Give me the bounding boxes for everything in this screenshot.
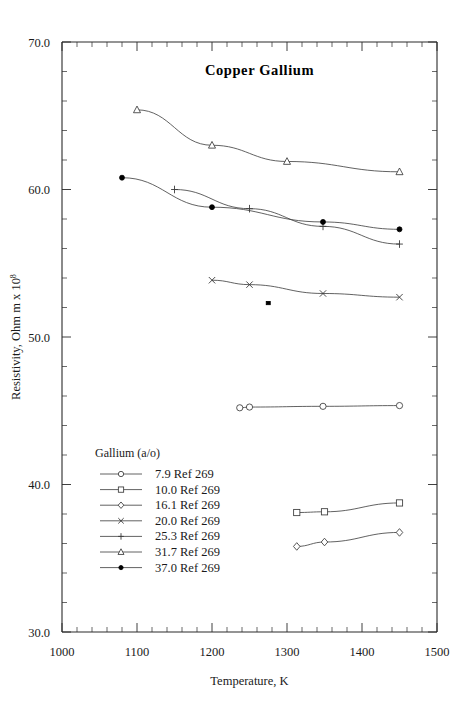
data-point-diamond-open xyxy=(396,529,403,537)
x-tick-label: 1000 xyxy=(50,645,75,659)
data-point-plus xyxy=(396,240,403,248)
data-point-square-small-filled xyxy=(266,301,270,304)
x-tick-label: 1500 xyxy=(425,645,450,659)
chart-svg: 100011001200130014001500 30.040.050.060.… xyxy=(0,0,472,707)
legend-title: Gallium (a/o) xyxy=(95,446,160,460)
data-point-square-open xyxy=(294,509,300,515)
data-point-plus xyxy=(171,186,178,194)
data-point-diamond-open xyxy=(321,538,328,546)
legend-item-label: 16.1 Ref 269 xyxy=(155,498,220,512)
legend-item-label: 31.7 Ref 269 xyxy=(155,545,220,559)
legend-item-label: 7.9 Ref 269 xyxy=(155,467,214,481)
series-20-0 xyxy=(209,277,403,300)
legend-item-label: 20.0 Ref 269 xyxy=(155,514,220,528)
data-point-circle-open xyxy=(320,403,326,409)
data-point-triangle-open xyxy=(283,158,290,165)
data-point-square-open xyxy=(321,509,327,515)
y-tick-label: 70.0 xyxy=(28,36,50,50)
data-point-circle-open xyxy=(396,402,402,408)
data-point-circle-filled xyxy=(397,227,402,232)
x-tick-label: 1100 xyxy=(125,645,150,659)
y-axis-tick-labels: 30.040.050.060.070.0 xyxy=(28,36,50,640)
data-point-diamond-open xyxy=(118,502,124,508)
chart-figure: 100011001200130014001500 30.040.050.060.… xyxy=(0,0,472,707)
plot-annotations xyxy=(266,301,270,304)
chart-title: Copper Gallium xyxy=(205,62,314,78)
legend-item-31-7[interactable]: 31.7 Ref 269 xyxy=(100,545,220,559)
data-point-circle-open xyxy=(118,471,123,476)
y-axis-label: Resistivity, Ohm m x 108 xyxy=(9,274,23,400)
plot-frame xyxy=(62,42,437,632)
data-point-circle-filled xyxy=(119,565,123,569)
data-point-square-open xyxy=(118,487,123,492)
x-axis-tick-labels: 100011001200130014001500 xyxy=(50,645,450,659)
legend-item-25-3[interactable]: 25.3 Ref 269 xyxy=(100,529,220,543)
y-tick-label: 60.0 xyxy=(28,183,50,197)
legend-item-37-0[interactable]: 37.0 Ref 269 xyxy=(100,561,220,575)
y-tick-label: 40.0 xyxy=(28,478,50,492)
legend-item-10-0[interactable]: 10.0 Ref 269 xyxy=(100,483,220,497)
data-point-diamond-open xyxy=(293,543,300,551)
series-10-0 xyxy=(294,500,403,516)
y-tick-label: 50.0 xyxy=(28,331,50,345)
x-tick-label: 1400 xyxy=(350,645,375,659)
series-25-3 xyxy=(171,186,403,248)
series-7-9 xyxy=(237,402,403,410)
chart-legend: Gallium (a/o)7.9 Ref 26910.0 Ref 26916.1… xyxy=(95,446,220,575)
data-point-circle-filled xyxy=(210,205,215,210)
legend-item-20-0[interactable]: 20.0 Ref 269 xyxy=(100,514,220,528)
series-16-1 xyxy=(293,529,402,551)
data-point-circle-filled xyxy=(321,219,326,224)
x-tick-label: 1200 xyxy=(200,645,225,659)
legend-item-7-9[interactable]: 7.9 Ref 269 xyxy=(100,467,214,481)
y-tick-label: 30.0 xyxy=(28,626,50,640)
y-axis-ticks xyxy=(62,42,437,632)
legend-item-16-1[interactable]: 16.1 Ref 269 xyxy=(100,498,220,512)
data-point-triangle-open xyxy=(396,168,403,175)
data-point-plus xyxy=(118,533,124,539)
data-point-circle-filled xyxy=(120,175,125,180)
data-point-triangle-open xyxy=(133,106,140,113)
x-tick-label: 1300 xyxy=(275,645,300,659)
data-point-square-open xyxy=(396,500,402,506)
data-point-circle-open xyxy=(237,405,243,411)
legend-item-label: 37.0 Ref 269 xyxy=(155,561,220,575)
legend-item-label: 25.3 Ref 269 xyxy=(155,529,220,543)
legend-item-label: 10.0 Ref 269 xyxy=(155,483,220,497)
series-31-7 xyxy=(133,106,403,175)
x-axis-ticks xyxy=(62,42,437,632)
series-37-0 xyxy=(120,175,402,232)
x-axis-label: Temperature, K xyxy=(210,674,288,688)
data-point-circle-open xyxy=(246,404,252,410)
